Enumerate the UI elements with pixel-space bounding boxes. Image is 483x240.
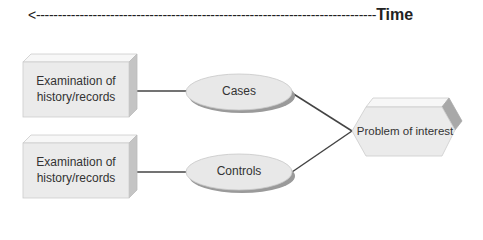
record-top-label: Examination of history/records	[23, 73, 129, 105]
connector-cases-problem	[292, 93, 352, 131]
connector-controls-problem	[292, 131, 352, 172]
record-top-line2: history/records	[23, 89, 129, 105]
record-top-line1: Examination of	[23, 73, 129, 89]
problem-label: Problem of interest	[350, 123, 460, 139]
record-bottom-label: Examination of history/records	[23, 154, 129, 186]
record-bottom-line2: history/records	[23, 170, 129, 186]
record-bottom-line1: Examination of	[23, 154, 129, 170]
cases-label: Cases	[186, 83, 292, 99]
controls-label: Controls	[186, 163, 292, 179]
